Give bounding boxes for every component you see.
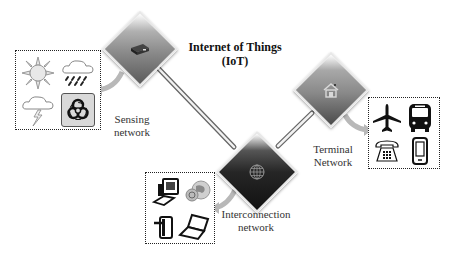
terminal-arrow bbox=[345, 115, 367, 130]
title-line1: Internet of Things bbox=[180, 40, 290, 54]
biohazard-icon bbox=[62, 94, 94, 126]
sun-icon bbox=[20, 55, 56, 91]
title-line2: (IoT) bbox=[180, 54, 290, 68]
home-icon bbox=[322, 82, 340, 98]
bus-icon bbox=[406, 102, 434, 134]
sensing-devices-box bbox=[15, 50, 101, 130]
terminal-network-label: Terminal Network bbox=[306, 143, 360, 169]
terminal-devices-box bbox=[368, 97, 440, 169]
laptop-icon bbox=[178, 211, 212, 241]
internet-globe-icon bbox=[184, 179, 212, 205]
interconnection-devices-box bbox=[145, 172, 215, 244]
interconnection-network-label: Interconnection network bbox=[216, 208, 296, 234]
airplane-icon bbox=[371, 102, 403, 134]
biohazard-tile bbox=[61, 93, 95, 127]
globe-icon bbox=[248, 163, 266, 181]
desktop-computer-icon bbox=[150, 176, 182, 208]
lightning-cloud-icon bbox=[20, 93, 56, 127]
telephone-icon bbox=[373, 138, 401, 164]
sensing-network-label: Sensing network bbox=[104, 113, 160, 139]
device-icon bbox=[129, 42, 151, 56]
mobile-phone-icon bbox=[411, 136, 429, 166]
tablet-icon bbox=[152, 213, 176, 241]
diagram-title: Internet of Things (IoT) bbox=[180, 40, 290, 68]
rain-cloud-icon bbox=[60, 57, 96, 89]
